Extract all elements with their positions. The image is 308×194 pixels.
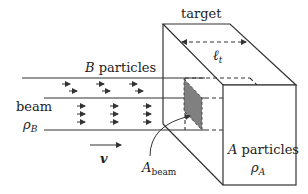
a-beam-pointer <box>150 116 190 156</box>
b-particles-label: B particles <box>84 60 156 75</box>
a-particles-label: A particles <box>227 142 299 157</box>
rho-b-label: ρB <box>22 117 38 134</box>
beam-target-diagram: target ℓt B particles beam ρB v Abeam A … <box>0 0 308 194</box>
beam-cross-section <box>184 79 202 130</box>
target-label: target <box>181 6 222 21</box>
particle-arrows <box>62 84 151 122</box>
a-beam-label: Abeam <box>141 160 177 177</box>
beam-label: beam <box>16 99 52 114</box>
velocity-label: v <box>100 151 108 166</box>
front-face <box>163 85 296 185</box>
